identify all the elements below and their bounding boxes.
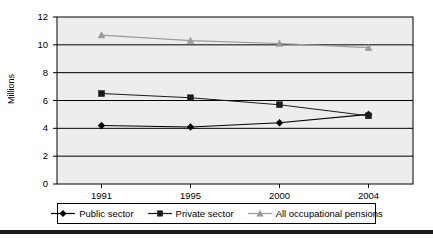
- data-point-marker-square: [99, 91, 105, 97]
- legend-item-label: All occupational pensions: [276, 208, 383, 219]
- y-tick-label: 6: [26, 95, 48, 106]
- x-tick-label: 1991: [80, 190, 124, 201]
- x-tick-label: 1995: [169, 190, 213, 201]
- y-axis-title: Millions: [6, 54, 16, 124]
- legend-item-public-sector[interactable]: Public sector: [50, 208, 133, 219]
- x-tick-label: 2000: [258, 190, 302, 201]
- legend-item-private-sector[interactable]: Private sector: [147, 208, 234, 219]
- y-tick-marks-group: [53, 17, 57, 184]
- data-point-marker-diamond: [60, 210, 66, 216]
- x-tick-label: 2004: [347, 190, 391, 201]
- legend-marker-icon: [50, 208, 76, 219]
- chart-plot-container: Millions 024681012 1991199520002004: [0, 0, 433, 200]
- data-point-marker-square: [157, 211, 162, 216]
- legend-marker-icon: [147, 208, 173, 219]
- y-tick-label: 10: [26, 39, 48, 50]
- legend-item-all-occupational-pensions[interactable]: All occupational pensions: [247, 208, 383, 219]
- legend-item-label: Public sector: [79, 208, 133, 219]
- bottom-divider-rule: [0, 230, 433, 234]
- y-tick-label: 0: [26, 178, 48, 189]
- y-tick-label: 12: [26, 11, 48, 22]
- x-tick-marks-group: [102, 184, 369, 188]
- legend-item-label: Private sector: [176, 208, 234, 219]
- y-tick-label: 8: [26, 67, 48, 78]
- y-tick-label: 2: [26, 150, 48, 161]
- data-point-marker-square: [277, 102, 283, 108]
- data-point-marker-square: [366, 113, 372, 119]
- chart-legend: Public sectorPrivate sectorAll occupatio…: [57, 203, 376, 224]
- chart-figure: Millions 024681012 1991199520002004 Publ…: [0, 0, 433, 238]
- data-point-marker-square: [188, 95, 194, 101]
- legend-marker-icon: [247, 208, 273, 219]
- line-chart-svg: [0, 0, 433, 200]
- y-tick-label: 4: [26, 122, 48, 133]
